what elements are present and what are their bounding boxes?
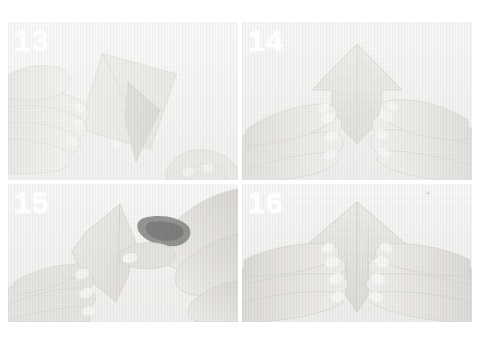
photo-panel-step-13: 13 [8, 22, 238, 180]
step-number-label-16: 16 [248, 186, 283, 220]
photo-panel-step-14: 14 [242, 22, 472, 180]
step-number-label-14: 14 [248, 24, 283, 58]
photo-panel-step-16: 16 [242, 184, 472, 322]
step-number-label-13: 13 [14, 24, 49, 58]
photo-panel-grid: 13 [8, 22, 472, 322]
page-root: 13 [0, 0, 483, 338]
photo-panel-step-15: 15 [8, 184, 238, 322]
step-number-label-15: 15 [14, 186, 49, 220]
